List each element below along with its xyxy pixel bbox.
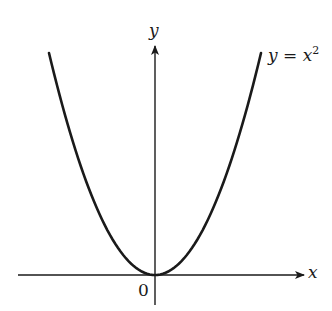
curve-equation-text: y = x: [268, 45, 312, 65]
curve-equation-label: y = x2: [268, 44, 319, 65]
parabola-figure: y x 0 y = x2: [0, 0, 332, 311]
x-axis-label: x: [308, 262, 318, 282]
y-axis-label: y: [149, 20, 159, 40]
curve-equation-exponent: 2: [312, 44, 319, 57]
origin-label: 0: [138, 280, 149, 300]
